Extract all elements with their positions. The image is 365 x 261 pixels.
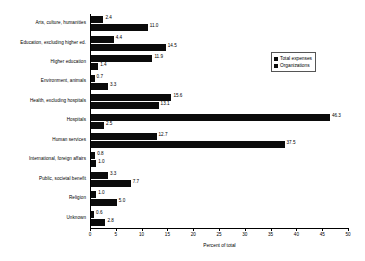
bar-expenses xyxy=(91,133,157,140)
bar-value-label: 1.0 xyxy=(98,159,104,164)
category-label: Environment, animals xyxy=(0,78,86,83)
legend-label: Organizations xyxy=(280,63,310,68)
bar-expenses xyxy=(91,94,171,101)
bar-value-label: 0.7 xyxy=(97,74,103,79)
x-tick-label: 5 xyxy=(115,232,118,237)
x-tick-label: 45 xyxy=(320,232,325,237)
category-label: Human services xyxy=(0,137,86,142)
bar-group: 0.73.3 xyxy=(91,74,349,91)
bar-expenses xyxy=(91,114,330,121)
bar-orgs xyxy=(91,219,105,226)
bar-group: 12.737.5 xyxy=(91,132,349,149)
category-label: Education, excluding higher ed. xyxy=(0,40,86,45)
bar-orgs xyxy=(91,63,98,70)
bar-orgs xyxy=(91,24,148,31)
category-label: Arts, culture, humanities xyxy=(0,20,86,25)
bar-expenses xyxy=(91,211,94,218)
bar-value-label: 12.7 xyxy=(159,132,168,137)
x-axis-ticks: 05101520253035404550 xyxy=(90,228,349,240)
x-tick-label: 30 xyxy=(242,232,247,237)
bar-value-label: 37.5 xyxy=(287,140,296,145)
category-label: Health, excluding hospitals xyxy=(0,98,86,103)
bar-group: 0.81.0 xyxy=(91,151,349,168)
bar-value-label: 11.0 xyxy=(150,23,159,28)
bar-group: 2.411.0 xyxy=(91,15,349,32)
bar-value-label: 5.0 xyxy=(119,198,125,203)
category-axis-labels: Arts, culture, humanitiesEducation, excl… xyxy=(0,14,89,228)
x-axis-title: Percent of total xyxy=(90,243,349,249)
bar-expenses xyxy=(91,172,108,179)
bar-expenses xyxy=(91,36,114,43)
category-label: Unknown xyxy=(0,215,86,220)
bar-expenses xyxy=(91,75,95,82)
plot-area: 2.411.04.414.511.91.40.73.315.613.146.32… xyxy=(90,14,349,228)
bar-orgs xyxy=(91,141,285,148)
x-tick-mark xyxy=(245,228,246,231)
bar-value-label: 4.4 xyxy=(116,35,122,40)
chart-legend: Total expenses Organizations xyxy=(271,52,316,72)
bar-value-label: 2.5 xyxy=(106,121,112,126)
legend-item-total-expenses: Total expenses xyxy=(274,55,312,62)
x-tick-mark xyxy=(90,228,91,231)
bar-group: 0.62.8 xyxy=(91,210,349,227)
x-tick-mark xyxy=(296,228,297,231)
x-tick-mark xyxy=(193,228,194,231)
bar-value-label: 3.3 xyxy=(110,82,116,87)
x-tick-mark xyxy=(116,228,117,231)
bar-value-label: 46.3 xyxy=(332,113,341,118)
x-tick-label: 50 xyxy=(345,232,350,237)
legend-swatch-icon xyxy=(274,57,278,61)
bar-orgs xyxy=(91,102,159,109)
bar-orgs xyxy=(91,83,108,90)
category-label: Hospitals xyxy=(0,117,86,122)
x-tick-label: 20 xyxy=(191,232,196,237)
bar-value-label: 2.8 xyxy=(107,218,113,223)
x-tick-label: 25 xyxy=(216,232,221,237)
x-tick-mark xyxy=(348,228,349,231)
bar-value-label: 1.0 xyxy=(98,190,104,195)
category-label: International, foreign affairs xyxy=(0,156,86,161)
bar-value-label: 15.6 xyxy=(173,93,182,98)
legend-item-organizations: Organizations xyxy=(274,62,312,69)
legend-label: Total expenses xyxy=(280,56,312,61)
bar-expenses xyxy=(91,55,152,62)
bar-value-label: 0.8 xyxy=(97,151,103,156)
x-tick-label: 15 xyxy=(165,232,170,237)
bar-group: 3.37.7 xyxy=(91,171,349,188)
bar-group: 46.32.5 xyxy=(91,113,349,130)
bar-orgs xyxy=(91,44,166,51)
bar-orgs xyxy=(91,160,96,167)
x-tick-mark xyxy=(219,228,220,231)
x-tick-label: 0 xyxy=(89,232,92,237)
bar-group: 1.05.0 xyxy=(91,190,349,207)
bar-expenses xyxy=(91,191,96,198)
bar-value-label: 13.1 xyxy=(161,101,170,106)
bar-group: 4.414.5 xyxy=(91,35,349,52)
bar-value-label: 1.4 xyxy=(100,62,106,67)
category-label: Higher education xyxy=(0,59,86,64)
bar-value-label: 7.7 xyxy=(133,179,139,184)
bar-chart: Arts, culture, humanitiesEducation, excl… xyxy=(0,0,365,261)
bar-value-label: 2.4 xyxy=(105,15,111,20)
bar-value-label: 14.5 xyxy=(168,43,177,48)
bar-orgs xyxy=(91,180,131,187)
bar-orgs xyxy=(91,199,117,206)
x-tick-label: 40 xyxy=(294,232,299,237)
bar-orgs xyxy=(91,122,104,129)
category-label: Religion xyxy=(0,195,86,200)
bar-expenses xyxy=(91,16,103,23)
bar-value-label: 11.9 xyxy=(154,54,163,59)
category-label: Public, societal benefit xyxy=(0,176,86,181)
bar-value-label: 0.6 xyxy=(96,210,102,215)
x-tick-label: 10 xyxy=(139,232,144,237)
x-tick-label: 35 xyxy=(268,232,273,237)
bar-value-label: 3.3 xyxy=(110,171,116,176)
x-tick-mark xyxy=(167,228,168,231)
bar-expenses xyxy=(91,152,95,159)
legend-swatch-icon xyxy=(274,64,278,68)
x-tick-mark xyxy=(142,228,143,231)
x-tick-mark xyxy=(271,228,272,231)
bar-group: 15.613.1 xyxy=(91,93,349,110)
x-tick-mark xyxy=(322,228,323,231)
